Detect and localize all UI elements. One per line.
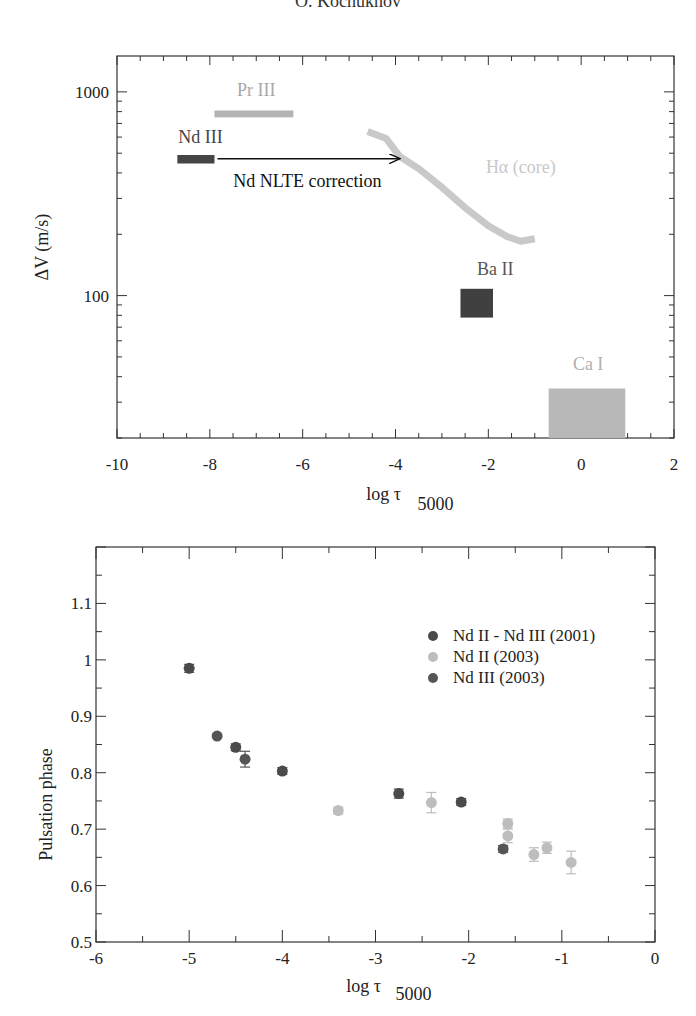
- x-tick-label: 0: [651, 949, 660, 968]
- data-point-series-2: [240, 754, 251, 765]
- y-tick-label: 1: [84, 651, 93, 670]
- legend-marker: [428, 631, 438, 641]
- x-tick-label: -3: [368, 949, 382, 968]
- y-tick-label: 0.7: [71, 820, 93, 839]
- data-point-series-1: [541, 842, 552, 853]
- data-point-series-0: [456, 797, 467, 808]
- legend-label: Nd III (2003): [453, 668, 545, 687]
- legend-marker: [428, 652, 438, 662]
- x-axis-title-subscript: 5000: [396, 984, 432, 1004]
- data-point-series-0: [184, 663, 195, 674]
- y-tick-label: 0.8: [71, 764, 92, 783]
- data-point-series-0: [230, 742, 241, 753]
- data-point-series-1: [426, 797, 437, 808]
- data-point-series-1: [566, 857, 577, 868]
- legend-label: Nd II - Nd III (2001): [453, 626, 595, 645]
- data-point-series-2: [212, 731, 223, 742]
- data-point-series-1: [528, 849, 539, 860]
- y-tick-label: 1.1: [71, 594, 92, 613]
- data-point-series-2: [498, 843, 509, 854]
- x-tick-label: -4: [275, 949, 290, 968]
- y-tick-label: 0.5: [71, 933, 92, 952]
- data-point-series-0: [277, 766, 288, 777]
- data-point-series-1: [333, 805, 344, 816]
- x-tick-label: -1: [555, 949, 569, 968]
- y-tick-label: 0.9: [71, 707, 92, 726]
- data-point-series-1: [502, 830, 513, 841]
- x-axis-title: log τ: [346, 976, 381, 996]
- x-tick-label: -2: [462, 949, 476, 968]
- plot-frame: [96, 547, 655, 942]
- legend-marker: [428, 673, 438, 683]
- y-tick-label: 0.6: [71, 877, 92, 896]
- data-point-series-1: [502, 818, 513, 829]
- data-point-series-0: [393, 788, 404, 799]
- legend-label: Nd II (2003): [453, 647, 539, 666]
- x-tick-label: -5: [182, 949, 196, 968]
- pulsation-phase-chart: -6-5-4-3-2-100.50.60.70.80.911.1log τ500…: [0, 0, 696, 1016]
- y-axis-title: Pulsation phase: [36, 748, 56, 861]
